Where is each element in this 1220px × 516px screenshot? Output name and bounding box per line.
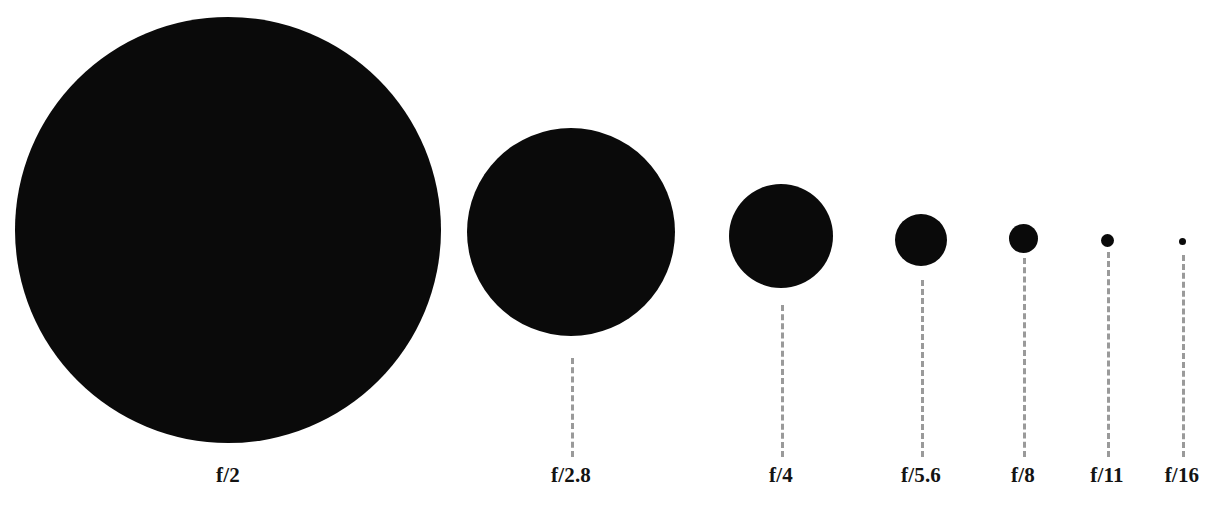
aperture-label: f/5.6 [901,465,941,486]
aperture-label: f/2 [216,465,240,486]
leader-line [571,358,574,457]
aperture-label: f/2.8 [551,465,591,486]
aperture-disc [895,214,947,266]
leader-line [921,280,924,457]
leader-line [1107,252,1110,457]
aperture-label: f/4 [769,465,793,486]
aperture-disc [1101,234,1114,247]
aperture-disc [467,128,675,336]
leader-line [781,305,784,457]
leader-line [1182,255,1185,457]
aperture-label: f/8 [1011,465,1035,486]
aperture-disc [1179,238,1186,245]
aperture-label: f/16 [1165,465,1200,486]
aperture-disc [15,17,441,443]
aperture-comparison-figure: f/2f/2.8f/4f/5.6f/8f/11f/16 [0,0,1220,516]
aperture-disc [1009,224,1038,253]
aperture-label: f/11 [1090,465,1123,486]
aperture-disc [729,184,833,288]
leader-line [1023,258,1026,457]
